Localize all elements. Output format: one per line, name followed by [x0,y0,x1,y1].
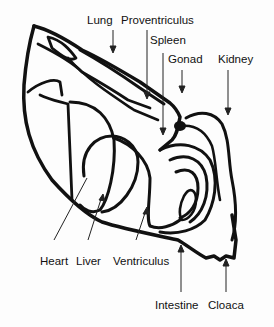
liver-pointer [88,196,102,240]
label-spleen: Spleen [150,35,186,47]
anatomy-diagram: Lung Proventriculus Spleen Gonad Kidney … [0,0,274,327]
label-proventriculus: Proventriculus [121,15,194,27]
organ-outline-drawing [0,0,274,327]
label-ventriculus: Ventriculus [113,256,169,268]
label-liver: Liver [76,256,101,268]
label-cloaca: Cloaca [208,300,244,312]
gonad-blob [174,121,186,131]
label-intestine: Intestine [155,300,198,312]
label-kidney: Kidney [218,54,253,66]
label-heart: Heart [40,256,68,268]
liver-outline [70,102,114,212]
air-sac-line [28,80,62,95]
label-gonad: Gonad [168,54,203,66]
label-lung: Lung [87,15,113,27]
